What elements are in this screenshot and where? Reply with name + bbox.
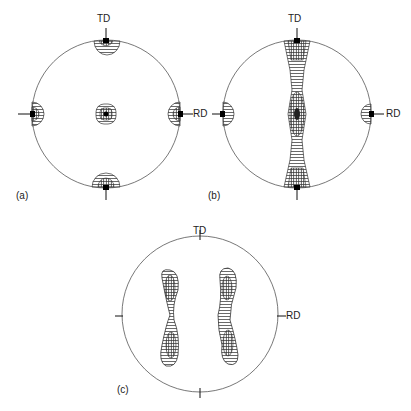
panel-a-td-label: TD [97, 14, 110, 24]
panel-b-td-label: TD [288, 14, 301, 24]
panel-b-label: (b) [208, 191, 220, 201]
panel-c-label: (c) [117, 385, 129, 395]
panel-c-td-label: TD [193, 226, 206, 236]
panel-b [212, 28, 384, 200]
pole-figures [0, 0, 411, 411]
panel-a-label: (a) [16, 191, 28, 201]
panel-a [18, 28, 193, 200]
panel-c-rd-label: RD [286, 311, 300, 321]
panel-b-rd-label: RD [386, 109, 400, 119]
panel-a-rd-label: RD [193, 109, 207, 119]
panel-c [115, 230, 286, 398]
